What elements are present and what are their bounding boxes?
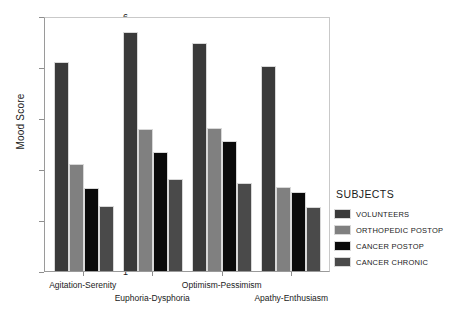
legend-swatch: [334, 257, 351, 267]
legend-swatch: [334, 225, 351, 235]
x-tick-mark: [152, 272, 153, 276]
bar: [54, 62, 69, 271]
legend-item[interactable]: ORTHOPEDIC POSTOP: [334, 225, 464, 235]
y-axis-title: Mood Score: [15, 72, 26, 172]
bar: [291, 192, 306, 271]
x-tick-label: Euphoria-Dysphoria: [115, 293, 190, 303]
bar: [306, 207, 321, 271]
bar: [192, 43, 207, 271]
bar-group: [49, 18, 118, 271]
x-tick-mark: [291, 272, 292, 276]
legend-items: VOLUNTEERSORTHOPEDIC POSTOPCANCER POSTOP…: [334, 209, 464, 267]
legend: SUBJECTS VOLUNTEERSORTHOPEDIC POSTOPCANC…: [334, 188, 464, 273]
x-tick-label: Optimism-Pessimism: [182, 280, 262, 290]
legend-label: CANCER CHRONIC: [356, 258, 428, 267]
legend-title: SUBJECTS: [336, 188, 464, 200]
x-tick-label: Agitation-Serenity: [49, 280, 116, 290]
legend-item[interactable]: CANCER POSTOP: [334, 241, 464, 251]
bar-group: [187, 18, 256, 271]
legend-label: ORTHOPEDIC POSTOP: [356, 226, 443, 235]
bar-group: [118, 18, 187, 271]
legend-swatch: [334, 241, 351, 251]
legend-label: VOLUNTEERS: [356, 210, 409, 219]
bar-group: [256, 18, 325, 271]
bar: [138, 129, 153, 271]
bar: [69, 164, 84, 271]
legend-item[interactable]: CANCER CHRONIC: [334, 257, 464, 267]
bar: [237, 183, 252, 271]
x-tick-label: Apathy-Enthusiasm: [254, 293, 328, 303]
bar: [261, 66, 276, 271]
bar: [276, 187, 291, 271]
plot-area: [44, 17, 330, 272]
bar-chart-figure: Mood Score 123456 Agitation-SerenityEuph…: [0, 0, 464, 311]
bar: [222, 141, 237, 271]
bar: [84, 188, 99, 271]
y-tick-mark: [39, 272, 44, 273]
x-tick-mark: [83, 272, 84, 276]
legend-label: CANCER POSTOP: [356, 242, 424, 251]
legend-item[interactable]: VOLUNTEERS: [334, 209, 464, 219]
bar-groups: [45, 18, 329, 271]
x-tick-mark: [222, 272, 223, 276]
bar: [207, 128, 222, 271]
bar: [168, 179, 183, 271]
bar: [123, 32, 138, 271]
bar: [153, 152, 168, 271]
bar: [99, 206, 114, 271]
legend-swatch: [334, 209, 351, 219]
